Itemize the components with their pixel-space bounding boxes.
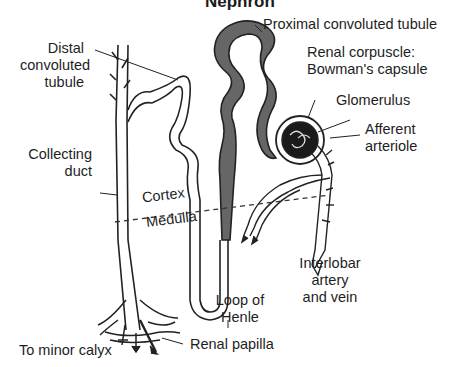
label-line: Loop of <box>210 292 270 309</box>
label-loop-of-henle: Loop of Henle <box>210 292 270 326</box>
label-line: Distal <box>20 40 84 57</box>
label-line: duct <box>14 163 92 180</box>
label-line: Collecting <box>14 146 92 163</box>
label-line: arteriole <box>365 138 417 155</box>
label-line: Bowman's capsule <box>307 61 427 78</box>
label-line: Henle <box>210 309 270 326</box>
label-collecting-duct: Collecting duct <box>14 146 92 180</box>
nephron-diagram: Nephron Distal convoluted tubule Proxima… <box>0 0 453 367</box>
label-to-minor-calyx: To minor calyx <box>19 342 112 359</box>
label-proximal-convoluted-tubule: Proximal convoluted tubule <box>263 16 437 33</box>
label-distal-convoluted-tubule: Distal convoluted tubule <box>20 40 84 91</box>
label-glomerulus: Glomerulus <box>336 92 410 109</box>
label-renal-corpuscle: Renal corpuscle: Bowman's capsule <box>307 44 427 78</box>
label-line: convoluted <box>20 57 84 74</box>
label-line: Renal corpuscle: <box>307 44 427 61</box>
label-line: tubule <box>20 74 84 91</box>
label-line: and vein <box>290 289 370 306</box>
label-afferent-arteriole: Afferent arteriole <box>365 121 417 155</box>
label-line: Afferent <box>365 121 417 138</box>
renal-corpuscle <box>276 116 324 164</box>
label-line: Interlobar <box>290 255 370 272</box>
label-renal-papilla: Renal papilla <box>190 336 274 353</box>
label-line: artery <box>290 272 370 289</box>
diagram-title: Nephron <box>205 0 275 12</box>
label-interlobar-artery-vein: Interlobar artery and vein <box>290 255 370 306</box>
